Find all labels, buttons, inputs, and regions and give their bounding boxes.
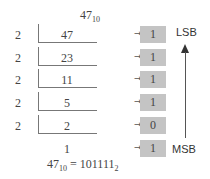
- remainder-box: 1: [140, 71, 166, 88]
- divisor: 2: [15, 119, 25, 134]
- remainder-box: 1: [140, 94, 166, 111]
- equation-lhs: 47: [47, 157, 59, 171]
- equation-lhs-base: 10: [59, 164, 67, 173]
- result-equation: 4710 = 1011112: [47, 157, 118, 173]
- dividend: 47: [38, 28, 96, 43]
- remainder-box: 1: [140, 49, 166, 66]
- equation-rhs: 101111: [80, 157, 115, 171]
- final-quotient: 1: [38, 142, 96, 157]
- bit-order-line: [185, 52, 186, 138]
- diagram-title: 4710: [80, 8, 100, 24]
- dividend: 5: [38, 96, 96, 111]
- divisor: 2: [15, 73, 25, 88]
- title-number: 47: [80, 8, 92, 22]
- equation-rhs-base: 2: [114, 164, 118, 173]
- remainder-box: 0: [140, 117, 166, 134]
- lsb-label: LSB: [176, 26, 197, 38]
- dividend: 11: [38, 73, 96, 88]
- divisor: 2: [15, 28, 25, 43]
- equals-sign: =: [70, 157, 77, 171]
- remainder-box: 1: [140, 140, 166, 157]
- msb-label: MSB: [172, 143, 196, 155]
- divisor: 2: [15, 51, 25, 66]
- remainder-box: 1: [140, 26, 166, 43]
- dividend: 23: [38, 51, 96, 66]
- divisor: 2: [15, 96, 25, 111]
- dividend: 2: [38, 119, 96, 134]
